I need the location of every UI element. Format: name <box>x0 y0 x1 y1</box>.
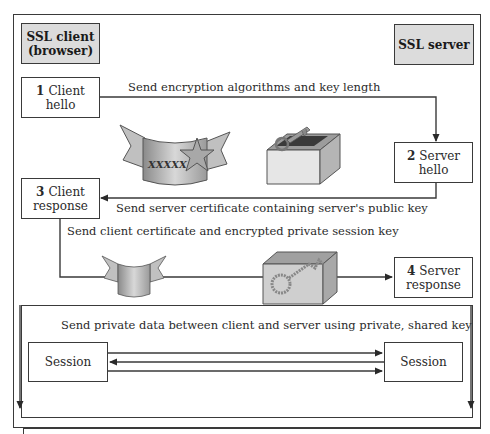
server-certificate-icon: XXXXX <box>115 120 235 200</box>
certificate-text: XXXXX <box>147 159 188 170</box>
encrypted-session-key-icon <box>259 250 339 306</box>
public-key-box-icon <box>262 122 342 192</box>
connector-lines <box>0 0 490 434</box>
client-certificate-icon <box>100 252 170 302</box>
